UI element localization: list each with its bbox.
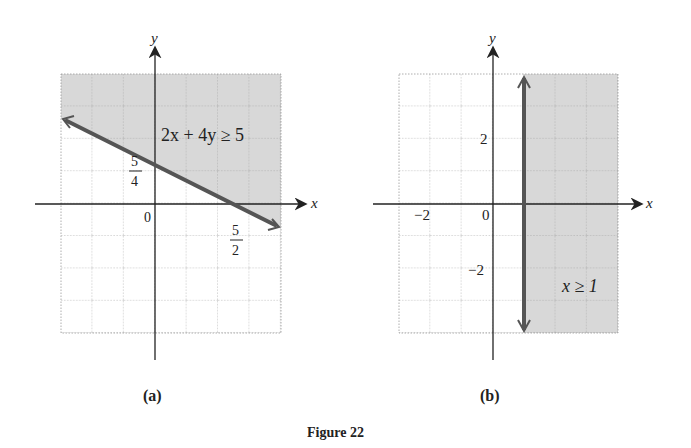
tick-x-neg2: −2	[414, 207, 430, 223]
y-axis-label: y	[487, 30, 496, 46]
x-axis-label: x	[310, 195, 318, 211]
y-intercept-den: 4	[131, 174, 138, 189]
figure-caption: Figure 22	[307, 425, 364, 441]
tick-y-2: 2	[480, 131, 488, 147]
x-intercept-den: 2	[232, 243, 239, 258]
panel-b-label: (b)	[480, 387, 500, 405]
y-axis-label: y	[149, 30, 158, 46]
origin-label: 0	[482, 207, 490, 223]
x-axis-label: x	[645, 195, 653, 211]
panel-a	[35, 48, 305, 360]
inequality-label: 2x + 4y ≥ 5	[161, 125, 244, 145]
y-intercept-num: 5	[131, 154, 138, 169]
panel-b	[373, 48, 641, 360]
figure-svg: y x 2x + 4y ≥ 5 0 5 4 5 2 y x 0 −2 2 −2 …	[0, 0, 691, 448]
origin-label: 0	[144, 210, 151, 225]
x-intercept-num: 5	[232, 223, 239, 238]
panel-a-label: (a)	[143, 387, 162, 405]
inequality-label: x ≥ 1	[561, 276, 598, 296]
tick-y-neg2: −2	[468, 262, 484, 278]
